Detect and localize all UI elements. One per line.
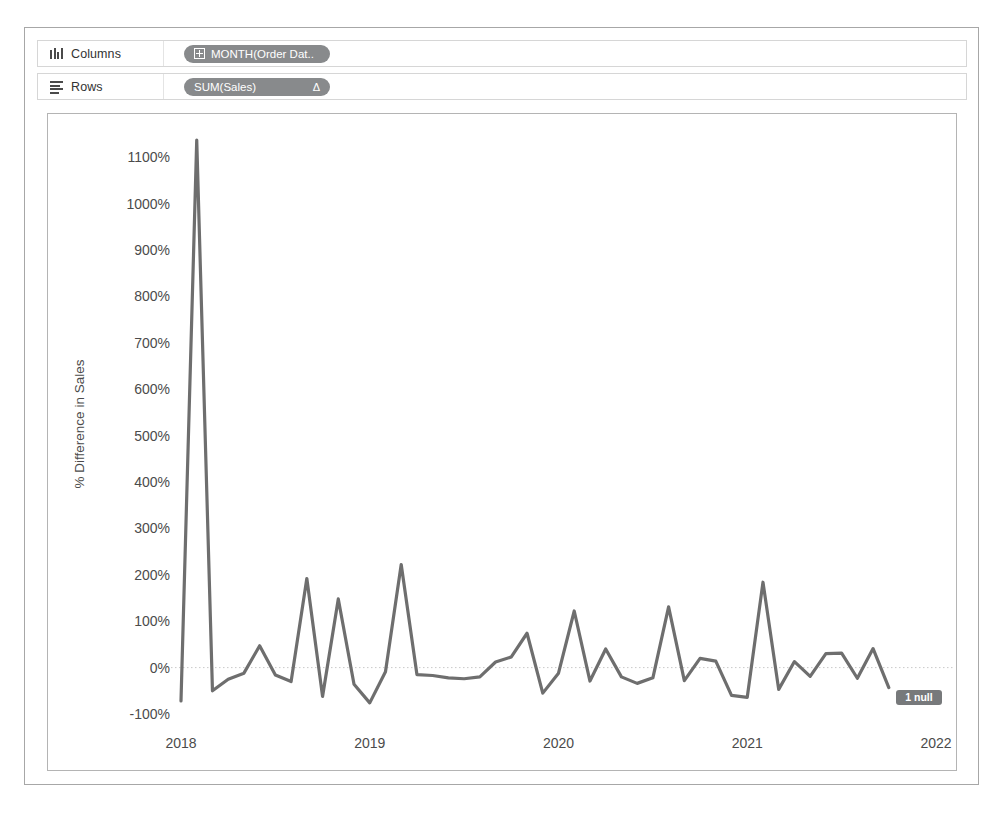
rows-shelf-label-box: Rows — [38, 74, 164, 99]
rows-shelf-label: Rows — [71, 80, 103, 94]
series-line-percent-difference-in-sales — [181, 140, 889, 703]
y-axis-tick-label: 900% — [134, 242, 170, 258]
quick-table-calc-icon: Δ — [313, 81, 320, 93]
pill-sum-sales[interactable]: SUM(Sales) Δ — [184, 78, 330, 96]
expand-plus-icon[interactable] — [194, 48, 205, 59]
x-axis-tick-label: 2020 — [543, 735, 574, 751]
y-axis-title: % Difference in Sales — [72, 359, 87, 488]
y-axis-tick-label: 0% — [150, 660, 170, 676]
pill-month-label: MONTH(Order Dat.. — [211, 48, 314, 60]
pill-sum-label: SUM(Sales) — [194, 81, 256, 93]
y-axis-tick-label: 400% — [134, 474, 170, 490]
y-axis-tick-label: 100% — [134, 613, 170, 629]
rows-icon — [50, 81, 63, 92]
y-axis-tick-label: 500% — [134, 428, 170, 444]
columns-icon — [50, 48, 63, 59]
worksheet-frame: Columns MONTH(Order Dat.. Rows SUM(Sales… — [24, 27, 979, 785]
chart-panel: 1100%1000%900%800%700%600%500%400%300%20… — [47, 113, 957, 771]
y-axis-tick-label: 200% — [134, 567, 170, 583]
y-axis-tick-label: -100% — [130, 706, 170, 722]
y-axis-tick-label: 800% — [134, 288, 170, 304]
columns-shelf-label: Columns — [71, 47, 121, 61]
y-axis-tick-label: 1100% — [127, 149, 170, 165]
x-axis-tick-label: 2022 — [920, 735, 951, 751]
pill-month-order-date[interactable]: MONTH(Order Dat.. — [184, 45, 330, 63]
null-badge-label: 1 null — [905, 691, 933, 703]
y-axis-tick-label: 700% — [134, 335, 170, 351]
columns-shelf[interactable]: Columns MONTH(Order Dat.. — [37, 40, 967, 67]
rows-shelf[interactable]: Rows SUM(Sales) Δ — [37, 73, 967, 100]
y-axis-tick-label: 300% — [134, 520, 170, 536]
x-axis-tick-label: 2021 — [732, 735, 763, 751]
line-chart: 1100%1000%900%800%700%600%500%400%300%20… — [48, 114, 956, 770]
screenshot-root: Columns MONTH(Order Dat.. Rows SUM(Sales… — [0, 0, 1004, 831]
series-polyline[interactable] — [181, 140, 889, 703]
x-axis-tick-labels: 20182019202020212022 — [165, 735, 951, 751]
x-axis-tick-label: 2018 — [165, 735, 196, 751]
null-indicator-badge: 1 null — [896, 690, 942, 705]
y-axis-tick-label: 1000% — [126, 196, 170, 212]
y-axis-tick-labels: 1100%1000%900%800%700%600%500%400%300%20… — [126, 149, 170, 722]
y-axis-tick-label: 600% — [134, 381, 170, 397]
x-axis-tick-label: 2019 — [354, 735, 385, 751]
columns-shelf-label-box: Columns — [38, 41, 164, 66]
